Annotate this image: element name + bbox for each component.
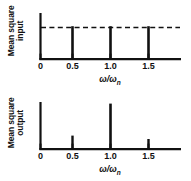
x-tick-label-0-input: 0 [30,61,52,71]
x-tick-label-0point5-output: 0.5 [62,151,84,161]
panel-mean-square-output: Mean square output 0 0.5 1.0 1.5 ω/ωn [0,92,191,181]
x-tick-label-0-output: 0 [30,151,52,161]
x-tick-label-0point5-input: 0.5 [62,61,84,71]
x-axis-title-output-text: ω/ω [99,164,117,174]
x-tick-label-1point5-output: 1.5 [138,151,160,161]
x-axis-title-output: ω/ωn [80,164,140,176]
x-tick-label-1point0-output: 1.0 [100,151,122,161]
panel-mean-square-input: Mean square input 0 0.5 1.0 1.5 ω/ωn [0,0,191,92]
x-tick-label-1point0-input: 1.0 [100,61,122,71]
figure-mean-square-input-output: Mean square input 0 0.5 1.0 1.5 ω/ωn [0,0,191,181]
x-axis-title-input-text: ω/ω [99,74,117,84]
x-tick-label-1point5-input: 1.5 [138,61,160,71]
x-axis-title-input: ω/ωn [80,74,140,86]
x-axis-title-input-subscript: n [117,79,121,86]
x-axis-title-output-subscript: n [117,169,121,176]
